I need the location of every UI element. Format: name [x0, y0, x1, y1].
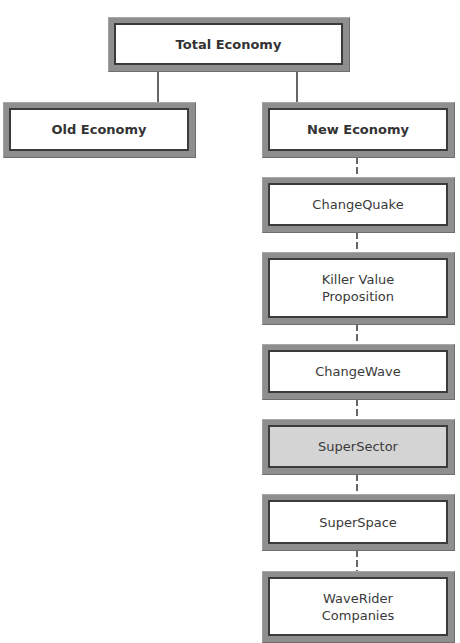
- node-superspace: SuperSpace: [262, 494, 455, 551]
- node-label: Total Economy: [114, 23, 343, 65]
- connector-root-to-new-economy: [296, 71, 298, 103]
- connector-superspace-to-waverider: [356, 550, 358, 571]
- connector-supersector-to-superspace: [356, 474, 358, 494]
- node-changequake: ChangeQuake: [262, 177, 455, 233]
- node-label: ChangeWave: [268, 350, 448, 393]
- node-new-economy: New Economy: [262, 102, 455, 158]
- node-label: SuperSector: [268, 425, 448, 468]
- node-label: WaveRider Companies: [268, 577, 448, 636]
- node-changewave: ChangeWave: [262, 344, 455, 400]
- node-label: Old Economy: [9, 108, 189, 151]
- node-waverider-companies: WaveRider Companies: [262, 571, 455, 643]
- node-supersector: SuperSector: [262, 419, 455, 475]
- connector-new-economy-to-changequake: [356, 157, 358, 177]
- connector-changequake-to-killer-value: [356, 232, 358, 252]
- node-old-economy: Old Economy: [3, 102, 196, 158]
- connector-root-to-old-economy: [157, 71, 159, 103]
- node-label: Killer Value Proposition: [268, 258, 448, 318]
- node-killer-value-proposition: Killer Value Proposition: [262, 252, 455, 325]
- node-label: New Economy: [268, 108, 448, 151]
- connector-killer-value-to-changewave: [356, 324, 358, 344]
- node-total-economy: Total Economy: [108, 17, 350, 72]
- node-label: ChangeQuake: [268, 183, 448, 226]
- node-label: SuperSpace: [268, 500, 448, 544]
- connector-changewave-to-supersector: [356, 399, 358, 419]
